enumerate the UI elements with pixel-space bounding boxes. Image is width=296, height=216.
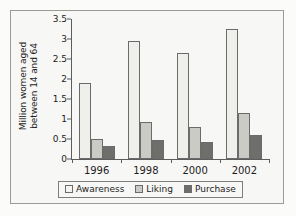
bar-liking-1998 — [140, 122, 152, 159]
y-tick-label: 2 — [45, 75, 67, 84]
bar-group-2002 — [226, 19, 262, 159]
bar-purchase-2002 — [250, 135, 262, 159]
legend-label: Purchase — [195, 184, 236, 194]
figure-frame: Million women aged between 14 and 64 00.… — [10, 10, 284, 204]
bar-liking-2002 — [238, 113, 250, 159]
y-axis-tick-labels: 00.511.522.533.5 — [45, 19, 67, 159]
legend-label: Awareness — [76, 184, 124, 194]
y-tick-mark — [67, 39, 71, 40]
legend-swatch-awareness-icon — [65, 185, 73, 193]
bar-group-1998 — [128, 19, 164, 159]
bar-liking-2000 — [189, 127, 201, 159]
y-axis-title: Million women aged between 14 and 64 — [18, 26, 48, 146]
y-tick-mark — [67, 119, 71, 120]
y-tick-mark — [67, 79, 71, 80]
bar-liking-1996 — [91, 139, 103, 159]
y-tick-label: 1.5 — [45, 95, 67, 104]
legend-swatch-purchase-icon — [184, 185, 192, 193]
bar-purchase-1996 — [103, 146, 115, 159]
x-tick-mark — [121, 159, 122, 163]
bar-chart: Million women aged between 14 and 64 00.… — [11, 11, 285, 205]
chart-legend: AwarenessLikingPurchase — [58, 181, 243, 198]
legend-label: Liking — [146, 184, 173, 194]
screenshot-page: Million women aged between 14 and 64 00.… — [0, 0, 296, 216]
y-tick-label: 0.5 — [45, 135, 67, 144]
y-tick-label: 3.5 — [45, 15, 67, 24]
y-tick-label: 1 — [45, 115, 67, 124]
y-axis-title-line-1: Million women aged — [18, 26, 29, 146]
legend-item-awareness[interactable]: Awareness — [65, 184, 124, 194]
y-tick-mark — [67, 59, 71, 60]
x-tick-mark — [72, 159, 73, 163]
bar-purchase-1998 — [152, 140, 164, 159]
x-tick-label-2002: 2002 — [232, 165, 257, 176]
x-tick-label-1998: 1998 — [133, 165, 158, 176]
x-tick-mark — [269, 159, 270, 163]
bar-purchase-2000 — [201, 142, 213, 159]
bar-awareness-2002 — [226, 29, 238, 159]
x-tick-label-1996: 1996 — [84, 165, 109, 176]
bar-awareness-2000 — [177, 53, 189, 159]
x-tick-mark — [171, 159, 172, 163]
y-tick-mark — [67, 159, 71, 160]
x-tick-mark — [220, 159, 221, 163]
y-tick-mark — [67, 139, 71, 140]
y-tick-mark — [67, 99, 71, 100]
bar-awareness-1998 — [128, 41, 140, 159]
legend-swatch-liking-icon — [135, 185, 143, 193]
bar-group-2000 — [177, 19, 213, 159]
legend-item-purchase[interactable]: Purchase — [184, 184, 236, 194]
y-tick-mark — [67, 19, 71, 20]
x-tick-label-2000: 2000 — [182, 165, 207, 176]
legend-item-liking[interactable]: Liking — [135, 184, 173, 194]
bar-group-1996 — [79, 19, 115, 159]
y-tick-label: 2.5 — [45, 55, 67, 64]
y-axis-title-line-2: between 14 and 64 — [29, 26, 40, 146]
bar-awareness-1996 — [79, 83, 91, 159]
y-tick-label: 3 — [45, 35, 67, 44]
y-tick-label: 0 — [45, 155, 67, 164]
plot-area — [72, 19, 269, 159]
